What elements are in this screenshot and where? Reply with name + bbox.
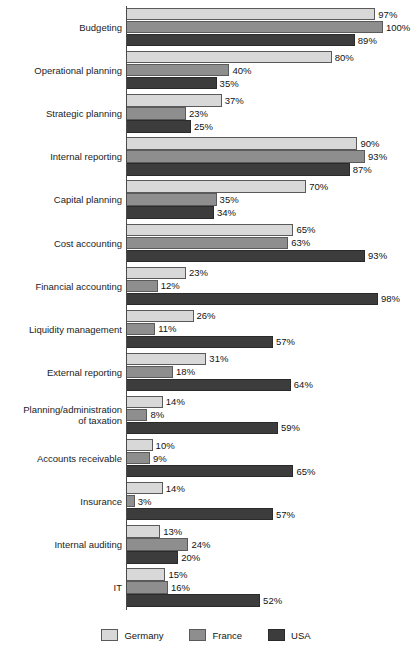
bar-row: 31% (127, 353, 412, 365)
bar-value-label: 18% (176, 365, 195, 378)
bar-value-label: 65% (296, 465, 315, 478)
category-group: Planning/administration of taxation14%8%… (0, 396, 412, 438)
category-label: Operational planning (0, 65, 122, 77)
legend-swatch-icon (268, 629, 285, 641)
bar-value-label: 10% (156, 439, 175, 452)
bar-value-label: 65% (296, 223, 315, 236)
category-label: Planning/administration of taxation (0, 404, 122, 427)
bar-france (127, 366, 173, 378)
category-group: Internal auditing13%24%20% (0, 525, 412, 567)
category-group: External reporting31%18%64% (0, 353, 412, 395)
bar-row: 26% (127, 310, 412, 322)
bar-row: 20% (127, 551, 412, 563)
bar-germany (127, 137, 357, 149)
bar-row: 89% (127, 34, 412, 46)
plot-area: Budgeting97%100%89%Operational planning8… (0, 0, 412, 615)
bar-germany (127, 310, 194, 322)
bar-germany (127, 482, 163, 494)
bar-row: 52% (127, 594, 412, 606)
bar-germany (127, 180, 306, 192)
category-group: Liquidity management26%11%57% (0, 310, 412, 352)
category-group: Strategic planning37%23%25% (0, 94, 412, 136)
bar-usa (127, 34, 355, 46)
bar-row: 11% (127, 323, 412, 335)
bar-value-label: 100% (386, 21, 410, 34)
bar-row: 24% (127, 538, 412, 550)
bar-germany (127, 525, 160, 537)
category-group: Cost accounting65%63%93% (0, 224, 412, 266)
legend-swatch-icon (101, 629, 118, 641)
bar-row: 80% (127, 51, 412, 63)
bar-france (127, 150, 365, 162)
bar-usa (127, 465, 293, 477)
bar-value-label: 35% (220, 77, 239, 90)
bar-row: 57% (127, 336, 412, 348)
bar-row: 65% (127, 224, 412, 236)
category-label: External reporting (0, 367, 122, 379)
bar-value-label: 15% (168, 568, 187, 581)
category-group: IT15%16%52% (0, 568, 412, 610)
category-label: Insurance (0, 496, 122, 508)
bar-value-label: 80% (335, 51, 354, 64)
bar-germany (127, 267, 186, 279)
bar-row: 98% (127, 293, 412, 305)
category-group: Operational planning80%40%35% (0, 51, 412, 93)
bar-row: 34% (127, 206, 412, 218)
category-label: Internal auditing (0, 539, 122, 551)
legend-label: Germany (124, 630, 163, 641)
bar-value-label: 57% (276, 508, 295, 521)
bar-usa (127, 336, 273, 348)
bar-usa (127, 551, 178, 563)
grouped-bar-chart: Budgeting97%100%89%Operational planning8… (0, 0, 412, 657)
bar-value-label: 31% (209, 352, 228, 365)
bar-row: 14% (127, 482, 412, 494)
bar-usa (127, 206, 214, 218)
bar-usa (127, 120, 191, 132)
bar-france (127, 581, 168, 593)
bar-france (127, 495, 135, 507)
category-group: Capital planning70%35%34% (0, 180, 412, 222)
bar-row: 90% (127, 137, 412, 149)
category-label: Accounts receivable (0, 453, 122, 465)
bar-value-label: 25% (194, 120, 213, 133)
bar-row: 16% (127, 581, 412, 593)
bar-row: 8% (127, 409, 412, 421)
bar-france (127, 193, 217, 205)
bar-value-label: 70% (309, 180, 328, 193)
category-label: Internal reporting (0, 151, 122, 163)
bar-value-label: 8% (150, 408, 164, 421)
legend-item-usa[interactable]: USA (268, 629, 311, 641)
bar-row: 35% (127, 193, 412, 205)
bar-row: 14% (127, 396, 412, 408)
bar-germany (127, 51, 332, 63)
legend-item-france[interactable]: France (189, 629, 242, 641)
bar-row: 10% (127, 439, 412, 451)
bar-row: 57% (127, 508, 412, 520)
bar-value-label: 59% (281, 421, 300, 434)
bar-row: 15% (127, 568, 412, 580)
category-label: Financial accounting (0, 281, 122, 293)
bar-value-label: 93% (368, 150, 387, 163)
bar-value-label: 9% (153, 452, 167, 465)
bar-row: 23% (127, 267, 412, 279)
bar-row: 100% (127, 21, 412, 33)
category-group: Internal reporting90%93%87% (0, 137, 412, 179)
bar-row: 3% (127, 495, 412, 507)
bar-row: 13% (127, 525, 412, 537)
legend-item-germany[interactable]: Germany (101, 629, 163, 641)
bar-value-label: 35% (220, 193, 239, 206)
bar-usa (127, 163, 350, 175)
bar-france (127, 323, 155, 335)
bar-germany (127, 568, 165, 580)
bar-row: 65% (127, 465, 412, 477)
category-group: Budgeting97%100%89% (0, 8, 412, 50)
bar-usa (127, 508, 273, 520)
bar-usa (127, 594, 260, 606)
bar-value-label: 14% (166, 482, 185, 495)
bar-value-label: 34% (217, 206, 236, 219)
bar-value-label: 11% (158, 322, 176, 335)
bar-row: 12% (127, 280, 412, 292)
bar-row: 87% (127, 163, 412, 175)
legend-label: France (212, 630, 242, 641)
bar-value-label: 24% (191, 538, 210, 551)
